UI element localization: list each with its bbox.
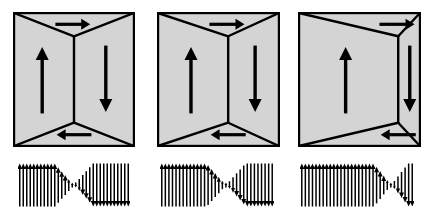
spin-arrow bbox=[225, 182, 228, 187]
domain-wall-figure bbox=[0, 0, 429, 218]
spin-arrow bbox=[349, 164, 354, 207]
spin-arrow bbox=[105, 164, 110, 207]
domain-diagram bbox=[13, 12, 135, 147]
spin-arrow bbox=[188, 164, 193, 207]
spin-arrow bbox=[42, 164, 47, 207]
spin-arrow bbox=[91, 164, 96, 207]
spin-arrow bbox=[67, 179, 70, 191]
spin-arrow bbox=[321, 164, 326, 207]
spin-arrow bbox=[381, 176, 386, 195]
spin-arrow bbox=[122, 164, 127, 207]
spin-arrow bbox=[371, 164, 376, 207]
spin-arrow bbox=[328, 164, 333, 207]
spin-arrow bbox=[399, 172, 404, 198]
spin-arrow bbox=[94, 164, 99, 207]
spin-arrow bbox=[410, 164, 414, 207]
domain-diagram bbox=[298, 12, 421, 147]
spin-arrow bbox=[170, 164, 175, 207]
spin-arrow bbox=[74, 182, 77, 187]
spin-arrow bbox=[356, 164, 361, 207]
spin-arrow bbox=[367, 164, 372, 207]
spin-arrow bbox=[241, 165, 246, 204]
spin-arrow bbox=[231, 177, 235, 192]
spin-arrow bbox=[360, 164, 365, 207]
spin-arrow bbox=[386, 180, 389, 190]
spin-arrow bbox=[252, 164, 257, 207]
spin-arrow bbox=[45, 164, 50, 207]
spin-arrow bbox=[108, 164, 113, 207]
spin-arrow bbox=[98, 164, 103, 207]
spin-arrow bbox=[378, 171, 383, 199]
spin-arrow bbox=[263, 164, 268, 207]
spin-arrow bbox=[342, 164, 347, 207]
spin-arrow bbox=[63, 175, 68, 195]
spin-arrow bbox=[406, 164, 411, 207]
domain-diagram bbox=[157, 12, 280, 147]
spin-arrow bbox=[221, 181, 224, 189]
spin-arrow bbox=[270, 164, 274, 207]
spin-arrow bbox=[115, 164, 120, 207]
spin-arrow bbox=[300, 164, 304, 207]
spin-arrow bbox=[266, 164, 271, 207]
spin-arrow bbox=[163, 164, 168, 207]
spin-arrow bbox=[112, 164, 117, 207]
spin-arrow bbox=[49, 164, 54, 207]
spin-arrow bbox=[403, 168, 408, 203]
spin-arrow bbox=[84, 171, 89, 199]
spin-arrow bbox=[78, 179, 81, 191]
spin-arrow bbox=[213, 173, 218, 197]
spin-arrow bbox=[71, 182, 74, 187]
spin-arrow bbox=[87, 167, 92, 203]
spin-arrow bbox=[184, 164, 189, 207]
spin-arrow bbox=[248, 164, 253, 207]
spin-arrow bbox=[160, 164, 164, 207]
spin-arrow bbox=[393, 181, 396, 189]
spin-arrow bbox=[255, 164, 260, 207]
spin-arrow bbox=[259, 164, 264, 207]
spin-arrow bbox=[209, 169, 214, 201]
spin-arrow bbox=[166, 164, 171, 207]
spin-arrow bbox=[126, 164, 130, 207]
spin-arrow bbox=[191, 164, 196, 207]
spin-arrow bbox=[314, 164, 319, 207]
spin-arrow bbox=[331, 164, 336, 207]
spin-arrow bbox=[374, 167, 379, 204]
spin-arrow bbox=[18, 164, 22, 207]
spin-arrow bbox=[234, 173, 239, 196]
spin-arrow bbox=[324, 164, 329, 207]
spin-arrow bbox=[21, 164, 26, 207]
spin-arrow bbox=[310, 164, 315, 207]
spin-arrow bbox=[28, 164, 33, 207]
spin-arrow bbox=[80, 175, 85, 195]
spin-arrow bbox=[335, 164, 340, 207]
spin-arrow bbox=[346, 164, 351, 207]
spin-arrow bbox=[119, 164, 124, 207]
spin-arrow bbox=[195, 164, 200, 207]
spin-arrow bbox=[59, 171, 64, 199]
spin-arrow bbox=[217, 177, 221, 193]
spin-arrow bbox=[35, 164, 40, 207]
spin-arrow bbox=[228, 181, 231, 188]
spin-arrow bbox=[177, 164, 182, 207]
spin-arrow bbox=[24, 164, 29, 207]
spin-arrow bbox=[238, 169, 243, 200]
spin-arrow bbox=[52, 164, 57, 207]
spin-arrow bbox=[353, 164, 358, 207]
spin-arrow bbox=[56, 167, 61, 203]
spin-chain bbox=[160, 160, 274, 210]
spin-arrow bbox=[306, 164, 311, 207]
spin-arrow bbox=[363, 164, 368, 207]
spin-chain bbox=[18, 160, 130, 210]
spin-arrow bbox=[198, 164, 203, 207]
spin-arrow bbox=[396, 176, 400, 193]
spin-arrow bbox=[181, 164, 186, 207]
spin-arrow bbox=[338, 164, 343, 207]
spin-arrow bbox=[389, 182, 392, 187]
spin-arrow bbox=[206, 165, 211, 205]
spin-arrow bbox=[101, 164, 106, 207]
spin-arrow bbox=[31, 164, 36, 207]
spin-arrow bbox=[38, 164, 43, 207]
spin-arrow bbox=[317, 164, 322, 207]
spin-arrow bbox=[174, 164, 179, 207]
spin-arrow bbox=[303, 164, 308, 207]
